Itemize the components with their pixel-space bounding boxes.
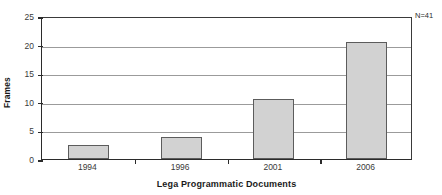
x-axis-title: Lega Programmatic Documents [41, 179, 412, 189]
y-axis-tick-mark [38, 17, 43, 18]
bar-chart: Frames 0510152025 1994199620012006 Lega … [0, 0, 442, 195]
y-axis-tick-label: 20 [12, 42, 34, 51]
y-axis-title: Frames [0, 58, 13, 128]
y-axis-tick-mark [38, 75, 43, 76]
x-axis-tick-label: 2006 [319, 163, 412, 172]
y-axis-tick-mark [38, 160, 43, 161]
y-axis-tick-label: 0 [12, 156, 34, 165]
bar [346, 42, 387, 159]
y-axis-tick-label: 15 [12, 70, 34, 79]
y-axis-tick-mark [38, 103, 43, 104]
y-axis-tick-mark [38, 132, 43, 133]
plot-area [41, 17, 412, 160]
x-axis-tick-label: 1994 [41, 163, 134, 172]
sample-size-annotation: N=41 [415, 11, 433, 20]
y-axis-tick-mark [38, 46, 43, 47]
bar [161, 137, 202, 159]
bar [253, 99, 294, 159]
x-axis-tick-label: 1996 [134, 163, 227, 172]
plot-inner [42, 18, 411, 159]
y-axis-tick-label: 5 [12, 127, 34, 136]
y-axis-tick-label: 10 [12, 99, 34, 108]
bar [68, 145, 109, 159]
y-axis-tick-label: 25 [12, 13, 34, 22]
x-axis-tick-label: 2001 [227, 163, 320, 172]
